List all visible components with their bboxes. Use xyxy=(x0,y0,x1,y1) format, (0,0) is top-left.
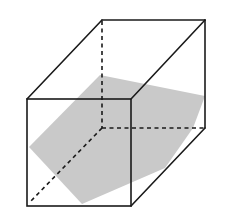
edge-top-right-depth xyxy=(131,20,205,99)
cuboid-diagram xyxy=(0,0,226,222)
cross-section-plane xyxy=(29,75,205,204)
